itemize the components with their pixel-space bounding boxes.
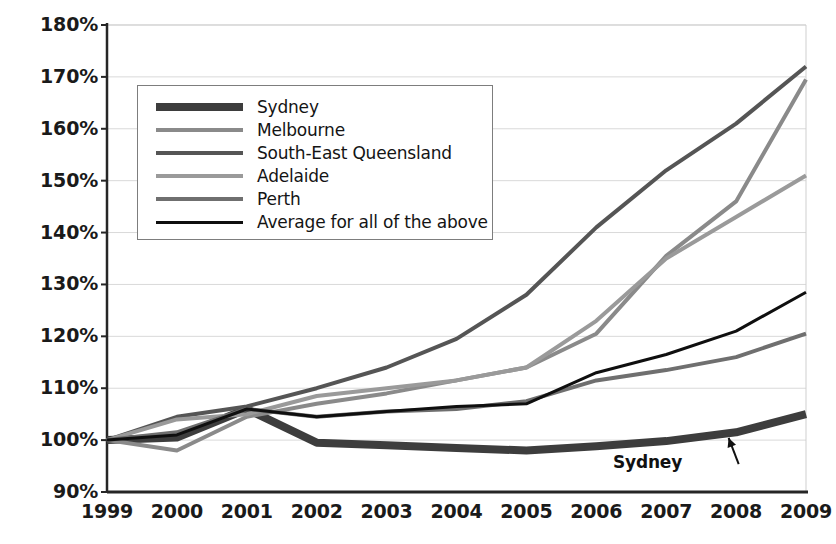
x-tick-label: 2006 — [561, 500, 631, 522]
legend-swatch — [156, 128, 243, 132]
y-tick-label: 170% — [0, 65, 98, 87]
legend-item-perth[interactable]: Perth — [156, 188, 301, 210]
x-tick-label: 2004 — [422, 500, 492, 522]
legend-item-adelaide[interactable]: Adelaide — [156, 165, 329, 187]
legend-swatch — [156, 221, 243, 224]
y-tick-label: 180% — [0, 13, 98, 35]
legend-label: Sydney — [257, 97, 319, 117]
y-tick-label: 90% — [0, 480, 98, 502]
x-tick-label: 2009 — [771, 500, 836, 522]
legend-item-south-east-queensland[interactable]: South-East Queensland — [156, 142, 452, 164]
legend-label: South-East Queensland — [257, 143, 452, 163]
x-tick-label: 2003 — [352, 500, 422, 522]
legend-item-sydney[interactable]: Sydney — [156, 96, 319, 118]
legend-label: Adelaide — [257, 166, 329, 186]
y-tick-label: 150% — [0, 169, 98, 191]
x-tick-label: 2001 — [212, 500, 282, 522]
y-tick-label: 110% — [0, 376, 98, 398]
x-tick-label: 1999 — [72, 500, 142, 522]
y-tick-label: 130% — [0, 272, 98, 294]
annotation-arrow — [728, 438, 739, 464]
y-tick-label: 140% — [0, 221, 98, 243]
legend-swatch — [156, 197, 243, 201]
legend-label: Perth — [257, 189, 301, 209]
x-tick-label: 2000 — [142, 500, 212, 522]
legend-label: Melbourne — [257, 120, 345, 140]
legend-item-average-for-all-of-the-above[interactable]: Average for all of the above — [156, 211, 488, 233]
chart-legend: SydneyMelbourneSouth-East QueenslandAdel… — [137, 85, 493, 240]
y-tick-label: 120% — [0, 324, 98, 346]
x-tick-label: 2007 — [631, 500, 701, 522]
legend-label: Average for all of the above — [257, 212, 488, 232]
legend-swatch — [156, 103, 243, 111]
y-tick-label: 160% — [0, 117, 98, 139]
x-tick-label: 2005 — [491, 500, 561, 522]
legend-item-melbourne[interactable]: Melbourne — [156, 119, 345, 141]
x-tick-label: 2002 — [282, 500, 352, 522]
legend-swatch — [156, 151, 243, 155]
legend-swatch — [156, 174, 243, 178]
x-tick-label: 2008 — [701, 500, 771, 522]
y-tick-label: 100% — [0, 428, 98, 450]
annotation-label-sydney: Sydney — [613, 452, 682, 472]
